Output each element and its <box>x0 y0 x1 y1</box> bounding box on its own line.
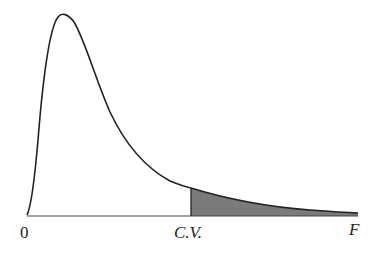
critical-value-label: C.V. <box>174 224 202 241</box>
f-distribution-diagram <box>0 0 388 255</box>
origin-label: 0 <box>20 224 29 241</box>
density-curve <box>27 14 358 215</box>
f-axis-label: F <box>349 221 359 238</box>
